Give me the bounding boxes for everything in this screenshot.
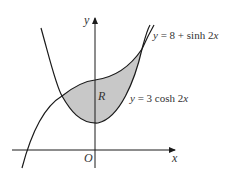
region-r-label: R — [97, 89, 106, 103]
y-axis-label: y — [83, 13, 90, 27]
x-axis-label: x — [171, 151, 178, 165]
sinh-curve-label: y = 8 + sinh 2x — [152, 29, 218, 41]
cosh-curve-label: y = 3 cosh 2x — [129, 92, 188, 104]
diagram-canvas: y x O R y = 8 + sinh 2x y = 3 cosh 2x — [0, 0, 239, 173]
origin-label: O — [84, 151, 93, 165]
